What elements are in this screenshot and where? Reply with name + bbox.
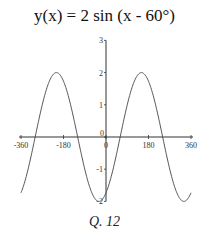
x-tick-label: -360 [14,141,29,150]
x-tick-label: 180 [143,141,155,150]
y-tick-label: 2 [99,69,103,78]
y-tick-label: 0 [100,129,104,138]
x-tick-label: 360 [185,141,197,150]
y-tick-label: 3 [99,36,103,45]
x-tick-label: 0 [104,141,108,150]
y-tick-label: -2 [96,197,103,206]
x-tick-label: -180 [56,141,71,150]
y-tick-label: -1 [96,165,103,174]
question-caption: Q. 12 [0,214,209,230]
plot-area: -360-1800180360-2-10123 [0,0,209,242]
y-tick-label: 1 [99,101,103,110]
